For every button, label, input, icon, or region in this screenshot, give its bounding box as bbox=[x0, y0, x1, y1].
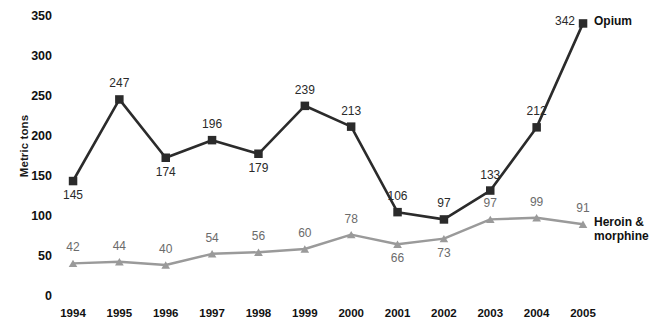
y-axis-tick-label: 0 bbox=[8, 289, 52, 303]
series-label-heroin-line1: Heroin & bbox=[594, 215, 653, 229]
data-point-marker-square bbox=[69, 177, 78, 186]
data-point-value-label: 44 bbox=[97, 239, 141, 253]
x-axis-tick-label: 2003 bbox=[464, 307, 516, 319]
series-opium-line bbox=[69, 19, 588, 224]
data-point-value-label: 196 bbox=[190, 117, 234, 131]
data-point-value-label: 56 bbox=[236, 229, 280, 243]
data-point-value-label: 247 bbox=[97, 76, 141, 90]
data-point-value-label: 78 bbox=[329, 212, 373, 226]
y-axis-tick-label: 100 bbox=[8, 209, 52, 223]
data-point-value-label: 174 bbox=[144, 165, 188, 179]
x-axis-tick-label: 1998 bbox=[232, 307, 284, 319]
data-point-value-label: 54 bbox=[190, 231, 234, 245]
series-label-heroin-morphine: Heroin & morphine bbox=[594, 215, 653, 243]
x-axis-tick-label: 2005 bbox=[557, 307, 609, 319]
data-point-value-label: 179 bbox=[236, 161, 280, 175]
data-point-marker-square bbox=[254, 150, 263, 159]
data-point-value-label: 145 bbox=[51, 188, 95, 202]
data-point-value-label: 212 bbox=[515, 104, 559, 118]
data-point-value-label: 40 bbox=[144, 242, 188, 256]
data-point-marker-square bbox=[301, 102, 310, 111]
data-point-value-label: 133 bbox=[468, 168, 512, 182]
x-axis-tick-label: 2000 bbox=[325, 307, 377, 319]
x-axis-tick-label: 2001 bbox=[372, 307, 424, 319]
x-axis-tick-label: 1994 bbox=[47, 307, 99, 319]
x-axis-tick-label: 1999 bbox=[279, 307, 331, 319]
x-axis-tick-label: 1995 bbox=[93, 307, 145, 319]
data-point-marker-square bbox=[440, 215, 449, 224]
data-point-value-label: 97 bbox=[468, 196, 512, 210]
data-point-value-label: 60 bbox=[283, 226, 327, 240]
x-axis-tick-label: 2002 bbox=[418, 307, 470, 319]
data-point-value-label: 213 bbox=[329, 104, 373, 118]
data-point-marker-square bbox=[532, 123, 541, 132]
data-point-marker-square bbox=[579, 19, 588, 28]
y-axis-tick-label: 300 bbox=[8, 49, 52, 63]
series-polyline bbox=[73, 23, 583, 219]
series-label-opium: Opium bbox=[594, 14, 632, 28]
y-axis-tick-label: 150 bbox=[8, 169, 52, 183]
data-point-marker-square bbox=[208, 136, 217, 145]
data-point-value-label: 99 bbox=[515, 195, 559, 209]
y-axis-tick-label: 250 bbox=[8, 89, 52, 103]
x-axis-tick-label: 1997 bbox=[186, 307, 238, 319]
x-axis-tick-label: 2004 bbox=[511, 307, 563, 319]
data-point-value-label: 97 bbox=[422, 196, 466, 210]
data-point-value-label: 73 bbox=[422, 246, 466, 260]
data-point-marker-square bbox=[486, 186, 495, 195]
data-point-marker-square bbox=[393, 208, 402, 217]
data-point-value-label: 342 bbox=[531, 14, 575, 28]
series-label-heroin-line2: morphine bbox=[594, 229, 653, 243]
y-axis-tick-label: 50 bbox=[8, 249, 52, 263]
data-point-value-label: 42 bbox=[51, 240, 95, 254]
data-point-marker-square bbox=[162, 154, 171, 163]
data-point-value-label: 106 bbox=[376, 189, 420, 203]
data-point-marker-square bbox=[347, 122, 356, 130]
x-axis-tick-label: 1996 bbox=[140, 307, 192, 319]
y-axis-tick-label: 200 bbox=[8, 129, 52, 143]
data-point-value-label: 239 bbox=[283, 83, 327, 97]
data-point-value-label: 91 bbox=[561, 201, 605, 215]
data-point-value-label: 66 bbox=[376, 251, 420, 265]
y-axis-tick-label: 350 bbox=[8, 9, 52, 23]
data-point-marker-square bbox=[115, 95, 124, 104]
